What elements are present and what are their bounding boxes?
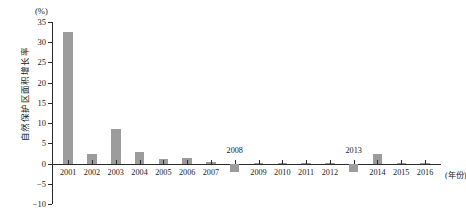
- y-axis-tick-label: 0: [42, 159, 46, 169]
- x-axis-tick-label: 2015: [393, 168, 409, 177]
- bar: [111, 129, 121, 163]
- x-axis-tick-label: 2001: [60, 168, 76, 177]
- x-axis-tick-label: 2006: [179, 168, 195, 177]
- y-axis-tick: [48, 164, 52, 165]
- x-axis-tick: [330, 160, 331, 164]
- y-axis-tick-label: 5: [42, 138, 46, 148]
- y-axis-tick-label: 30: [38, 37, 47, 47]
- x-axis-tick-label: 2007: [203, 168, 219, 177]
- y-axis-tick: [48, 204, 52, 205]
- x-axis-tick-label: 2013: [345, 146, 361, 155]
- y-axis-line: [52, 22, 53, 204]
- y-axis-unit-label: (%): [35, 6, 48, 16]
- x-axis-tick-label: 2008: [227, 146, 243, 155]
- y-axis-tick: [48, 103, 52, 104]
- x-axis-tick: [425, 160, 426, 164]
- x-axis-tick-label: 2012: [322, 168, 338, 177]
- y-axis-tick: [48, 83, 52, 84]
- x-axis-tick-label: 2004: [131, 168, 147, 177]
- x-axis-line: [52, 164, 441, 165]
- x-axis-tick: [259, 160, 260, 164]
- plot-area: −10−505101520253035200120022003200420052…: [52, 22, 447, 204]
- x-axis-tick-label: 2005: [155, 168, 171, 177]
- y-axis-tick-label: −5: [37, 179, 46, 189]
- y-axis-tick: [48, 42, 52, 43]
- x-axis-tick: [116, 160, 117, 164]
- x-axis-tick-label: 2011: [298, 168, 314, 177]
- y-axis-tick: [48, 123, 52, 124]
- x-axis-tick: [140, 160, 141, 164]
- x-axis-tick: [235, 160, 236, 164]
- x-axis-tick: [163, 160, 164, 164]
- y-axis-title: 自然保护区面积增长率: [18, 24, 30, 164]
- x-axis-tick-label: 2016: [417, 168, 433, 177]
- bar: [230, 164, 240, 172]
- bar: [63, 32, 73, 163]
- y-axis-tick-label: −10: [33, 199, 46, 209]
- y-axis-tick-label: 20: [38, 78, 47, 88]
- x-axis-tick: [354, 160, 355, 164]
- y-axis-tick: [48, 62, 52, 63]
- x-axis-tick-label: 2009: [250, 168, 266, 177]
- x-axis-tick: [377, 160, 378, 164]
- x-axis-title: (年份): [445, 168, 466, 180]
- y-axis-tick-label: 15: [38, 98, 47, 108]
- x-axis-tick-label: 2003: [108, 168, 124, 177]
- x-axis-tick: [282, 160, 283, 164]
- y-axis-tick: [48, 22, 52, 23]
- bar: [349, 164, 359, 172]
- y-axis-tick: [48, 143, 52, 144]
- y-axis-tick: [48, 184, 52, 185]
- y-axis-tick-label: 10: [38, 118, 47, 128]
- x-axis-tick: [306, 160, 307, 164]
- y-axis-tick-label: 35: [38, 17, 47, 27]
- y-axis-tick-label: 25: [38, 57, 47, 67]
- x-axis-tick: [211, 160, 212, 164]
- x-axis-tick-label: 2014: [369, 168, 385, 177]
- x-axis-tick: [92, 160, 93, 164]
- x-axis-tick: [401, 160, 402, 164]
- x-axis-tick-label: 2002: [84, 168, 100, 177]
- x-axis-tick: [68, 160, 69, 164]
- x-axis-tick: [187, 160, 188, 164]
- x-axis-tick-label: 2010: [274, 168, 290, 177]
